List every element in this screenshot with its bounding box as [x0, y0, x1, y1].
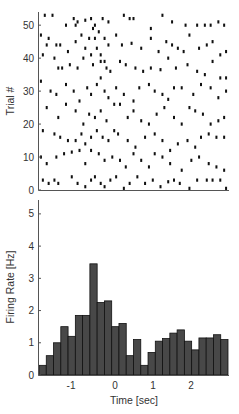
spike-mark [115, 86, 117, 89]
spike-mark [167, 57, 169, 60]
spike-mark [94, 116, 96, 119]
x-tick-label: 1 [150, 380, 156, 391]
spike-mark [196, 179, 198, 182]
spike-mark [179, 182, 181, 185]
spike-mark [115, 175, 117, 178]
spike-mark [169, 149, 171, 152]
spike-mark [46, 106, 48, 109]
spike-mark [82, 122, 84, 125]
spike-mark [219, 76, 221, 79]
spike-mark [94, 175, 96, 178]
spike-mark [208, 132, 210, 135]
spike-mark [75, 40, 77, 43]
spike-mark [134, 66, 136, 69]
spike-mark [125, 165, 127, 168]
y-tick-label: 1 [28, 337, 34, 348]
spike-mark [215, 165, 217, 168]
spike-mark [223, 116, 225, 119]
spike-mark [175, 66, 177, 69]
spike-mark [53, 57, 55, 60]
histogram-bar [104, 301, 111, 375]
spike-mark [104, 185, 106, 188]
spike-mark [196, 24, 198, 27]
spike-mark [215, 136, 217, 139]
histogram-plot: 012345 -1012 Time [sec] Firing Rate [Hz] [4, 200, 229, 406]
spike-mark [109, 70, 111, 73]
spike-mark [144, 136, 146, 139]
spike-mark [185, 24, 187, 27]
spike-mark [46, 162, 48, 165]
spike-mark [123, 14, 125, 17]
spike-mark [190, 159, 192, 162]
spike-mark [212, 40, 214, 43]
spike-mark [194, 109, 196, 112]
y-tick-label: 50 [23, 20, 35, 31]
spike-mark [127, 139, 129, 142]
spike-mark [121, 43, 123, 46]
spike-mark [188, 187, 190, 190]
spike-mark [154, 132, 156, 135]
spike-mark [119, 60, 121, 63]
spike-mark [94, 37, 96, 40]
spike-mark [59, 43, 61, 46]
spike-mark [148, 83, 150, 86]
histogram-bar [112, 327, 119, 375]
spike-mark [109, 179, 111, 182]
spike-mark [208, 162, 210, 165]
x-tick-label: -1 [67, 380, 76, 391]
spike-mark [148, 122, 150, 125]
spike-mark [107, 20, 109, 23]
hist-y-ticks: 012345 [28, 208, 41, 380]
spike-mark [107, 96, 109, 99]
spike-mark [106, 66, 108, 69]
spike-mark [181, 86, 183, 89]
spike-mark [92, 63, 94, 66]
spike-mark [183, 50, 185, 53]
spike-mark [154, 90, 156, 93]
spike-mark [82, 57, 84, 60]
spike-mark [79, 99, 81, 102]
spike-mark [129, 182, 131, 185]
spike-mark [84, 142, 86, 145]
spike-mark [113, 129, 115, 132]
spike-mark [88, 37, 90, 40]
histogram-bar [61, 327, 68, 375]
histogram-bar [199, 338, 206, 375]
histogram-bar [163, 339, 170, 375]
spike-mark [92, 27, 94, 30]
spike-mark [204, 24, 206, 27]
spike-mark [98, 152, 100, 155]
spike-mark [173, 86, 175, 89]
spike-mark [161, 93, 163, 96]
spike-mark [133, 17, 135, 20]
spike-mark [55, 43, 57, 46]
spike-mark [167, 180, 169, 183]
spike-mark [204, 73, 206, 76]
spike-mark [142, 70, 144, 73]
histogram-bar [97, 303, 104, 376]
spike-mark [107, 43, 109, 46]
spike-mark [206, 43, 208, 46]
spike-mark [100, 109, 102, 112]
spike-mark [63, 152, 65, 155]
histogram-bar [221, 340, 228, 375]
spike-mark [133, 152, 135, 155]
spike-mark [104, 90, 106, 93]
histogram-bar [39, 365, 46, 375]
spike-mark [90, 17, 92, 20]
y-tick-label: 2 [28, 305, 34, 316]
spike-mark [188, 106, 190, 109]
spike-mark [42, 53, 44, 56]
spike-mark [75, 24, 77, 27]
spike-mark [71, 175, 73, 178]
spike-mark [44, 14, 46, 17]
histogram-bar [148, 352, 155, 375]
histogram-bars [39, 264, 228, 375]
spike-mark [158, 50, 160, 53]
spike-mark [102, 136, 104, 139]
spike-mark [161, 139, 163, 142]
spike-mark [111, 155, 113, 158]
spike-mark [140, 159, 142, 162]
spike-mark [79, 149, 81, 152]
spike-mark [138, 86, 140, 89]
